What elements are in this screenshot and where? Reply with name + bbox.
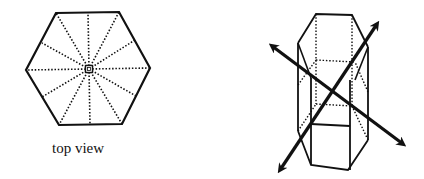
top-view-caption: top view — [52, 140, 104, 157]
top-view-hexagon — [26, 12, 150, 125]
double-headed-arrows — [272, 24, 403, 170]
center-axis-marker — [86, 66, 93, 73]
arrow-descending — [272, 46, 403, 144]
